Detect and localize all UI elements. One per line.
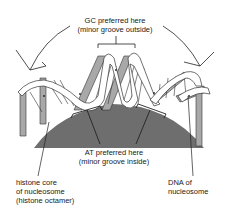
at-label-line1: AT preferred here	[72, 148, 156, 157]
gc-label-line2: (minor groove outside)	[70, 25, 160, 34]
dna-label-line2: nucleosome	[168, 187, 208, 196]
histone-core	[34, 104, 204, 148]
gc-label-line1: GC preferred here	[70, 16, 160, 25]
at-label: AT preferred here (minor groove inside)	[72, 148, 156, 166]
histone-label-line3: (histone octamer)	[16, 196, 74, 205]
at-label-line2: (minor groove inside)	[72, 157, 156, 166]
histone-label: histone core of nucleosome (histone octa…	[16, 178, 74, 205]
dna-label-line1: DNA of	[168, 178, 208, 187]
histone-label-line2: of nucleosome	[16, 187, 74, 196]
dna-label: DNA of nucleosome	[168, 178, 208, 196]
gc-label: GC preferred here (minor groove outside)	[70, 16, 160, 34]
histone-label-line1: histone core	[16, 178, 74, 187]
